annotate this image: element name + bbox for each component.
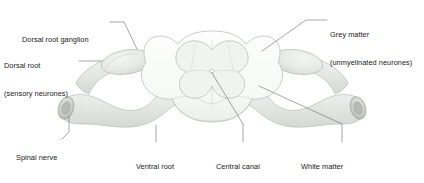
label-dorsal-root-line-2: (sensory neurones) (4, 89, 68, 98)
label-spinal-nerve: Spinal nerve (mixed sensory and motor ne… (16, 135, 85, 183)
label-spinal-nerve-line-2: (mixed sensory (16, 181, 85, 183)
label-white-matter-line-1: White matter (301, 162, 375, 171)
label-spinal-nerve-line-1: Spinal nerve (16, 153, 85, 162)
label-white-matter: White matter (myelinated neurones) (301, 144, 375, 183)
label-grey-matter-line-2: (unmyelinated neurones) (330, 58, 412, 67)
label-ventral-root: Ventral root (motor neurones) (136, 144, 193, 183)
central-canal-dot (210, 69, 215, 72)
label-ventral-root-line-1: Ventral root (136, 162, 193, 171)
label-dorsal-root: Dorsal root (sensory neurones) (4, 43, 68, 117)
label-grey-matter: Grey matter (unmyelinated neurones) (330, 12, 412, 86)
label-dorsal-root-line-1: Dorsal root (4, 61, 68, 70)
spinal-cord-diagram: Dorsal root ganglion Dorsal root (sensor… (0, 0, 424, 183)
label-central-canal-line-1: Central canal (216, 162, 281, 171)
label-central-canal: Central canal (containing cerebro-spinal… (216, 144, 281, 183)
label-grey-matter-line-1: Grey matter (330, 30, 412, 39)
leader-dorsal-root-ganglion (110, 22, 137, 49)
